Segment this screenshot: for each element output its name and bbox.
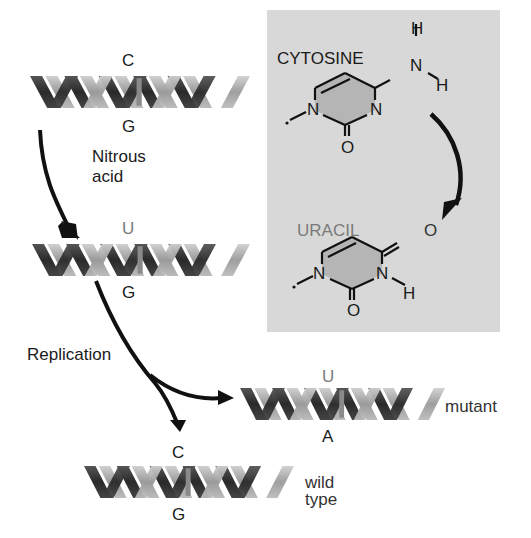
uracil-structure-icon [0,0,531,538]
uracil-n3: N [376,265,388,282]
uracil-o2: O [347,302,360,319]
uracil-o4: O [424,222,437,239]
uracil-h3: H [403,285,415,302]
uracil-n1: N [313,265,325,282]
